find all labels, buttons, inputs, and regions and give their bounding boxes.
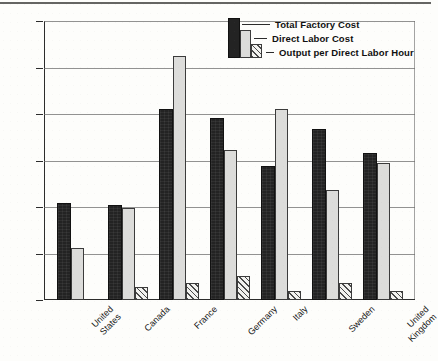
- legend-leader-line: [254, 38, 267, 39]
- bar-direct-labor-cost-italy: [275, 109, 288, 301]
- x-tick-label-italy: Italy: [291, 304, 310, 323]
- bar-output-per-direct-labor-hour-sweden: [339, 283, 352, 300]
- bar-total-factory-cost-france: [159, 109, 173, 301]
- x-tick-label-germany: Germany: [246, 304, 280, 338]
- y-tick-mark-0: [36, 300, 43, 301]
- bar-group-united-states: [57, 21, 97, 300]
- x-tick-label-line1: Canada: [142, 304, 171, 333]
- y-tick-mark-100: [36, 114, 43, 115]
- y-tick-mark-75: [36, 161, 43, 162]
- bar-total-factory-cost-italy: [261, 166, 275, 300]
- legend-leader-line: [266, 52, 274, 53]
- bar-direct-labor-cost-canada: [122, 208, 135, 300]
- legend-label-output-per-direct-labor-hour: Output per Direct Labor Hour: [279, 47, 414, 58]
- x-tick-label-line1: Italy: [291, 304, 310, 323]
- y-tick-mark-25: [36, 254, 43, 255]
- y-tick-mark-125: [36, 68, 43, 69]
- plot-area: United States Canada France Germany Ital…: [44, 21, 415, 300]
- x-tick-label-united-kingdom: United Kingdom: [398, 304, 438, 344]
- legend-item-direct-labor-cost: Direct Labor Cost: [254, 32, 353, 44]
- bar-output-per-direct-labor-hour-italy: [288, 291, 301, 300]
- x-tick-label-line1: Sweden: [347, 304, 377, 334]
- y-tick-mark-50: [36, 207, 43, 208]
- bar-output-per-direct-labor-hour-germany: [237, 276, 250, 300]
- legend-swatch-total-factory-cost: [228, 18, 240, 58]
- legend-label-total-factory-cost: Total Factory Cost: [275, 19, 360, 30]
- bar-output-per-direct-labor-hour-canada: [135, 287, 148, 300]
- x-tick-label-canada: Canada: [142, 304, 172, 334]
- bar-total-factory-cost-germany: [210, 118, 224, 300]
- x-tick-label-line1: Germany: [246, 304, 279, 337]
- bar-group-germany: [210, 21, 250, 300]
- bar-total-factory-cost-canada: [108, 205, 122, 300]
- bar-direct-labor-cost-france: [173, 56, 186, 300]
- bar-total-factory-cost-sweden: [312, 129, 326, 300]
- legend-swatch-output-per-direct-labor-hour: [251, 44, 262, 58]
- y-tick-mark-150: [36, 21, 43, 22]
- x-tick-label-sweden: Sweden: [347, 304, 377, 334]
- bar-group-canada: [108, 21, 148, 300]
- bar-total-factory-cost-united-kingdom: [363, 153, 377, 300]
- bar-group-united-kingdom: [363, 21, 403, 300]
- bar-output-per-direct-labor-hour-united-kingdom: [390, 291, 403, 300]
- x-tick-label-france: France: [192, 304, 219, 331]
- legend-swatch-direct-labor-cost: [240, 30, 251, 58]
- bar-output-per-direct-labor-hour-france: [186, 283, 199, 300]
- legend-label-direct-labor-cost: Direct Labor Cost: [272, 33, 353, 44]
- legend-item-output-per-direct-labor-hour: Output per Direct Labor Hour: [266, 46, 414, 58]
- bar-direct-labor-cost-sweden: [326, 190, 339, 300]
- bar-direct-labor-cost-united-states: [71, 248, 84, 300]
- bar-direct-labor-cost-germany: [224, 150, 237, 300]
- bar-group-italy: [261, 21, 301, 300]
- legend-item-total-factory-cost: Total Factory Cost: [242, 18, 360, 30]
- bar-group-france: [159, 21, 199, 300]
- bar-group-sweden: [312, 21, 352, 300]
- legend-leader-line: [242, 24, 270, 25]
- x-tick-label-line1: France: [192, 304, 219, 331]
- bar-total-factory-cost-united-states: [57, 203, 71, 300]
- x-tick-label-united-states: United States: [90, 304, 123, 337]
- scan-edge-line: [0, 2, 431, 4]
- bar-direct-labor-cost-united-kingdom: [377, 163, 390, 300]
